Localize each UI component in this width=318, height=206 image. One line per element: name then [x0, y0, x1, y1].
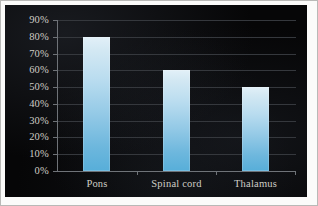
xtick-sep-1 — [137, 171, 138, 175]
xtick-sep-3 — [295, 171, 296, 175]
ytick-label-40: 40% — [5, 99, 49, 110]
ytick-10 — [53, 154, 57, 155]
ytick-80 — [53, 37, 57, 38]
ytick-70 — [53, 54, 57, 55]
axis-y-line — [57, 20, 58, 171]
chart-figure: 90% 80% 70% 60% 50% 40% 30% 20% 10% 0% P… — [0, 0, 318, 206]
bar-pons[interactable] — [83, 37, 110, 171]
axis-x-baseline — [57, 171, 296, 172]
ytick-label-30: 30% — [5, 116, 49, 127]
ytick-40 — [53, 104, 57, 105]
plot-area: 90% 80% 70% 60% 50% 40% 30% 20% 10% 0% P… — [57, 20, 296, 171]
ytick-label-80: 80% — [5, 32, 49, 43]
ytick-60 — [53, 70, 57, 71]
ytick-30 — [53, 121, 57, 122]
ytick-20 — [53, 137, 57, 138]
gridline-90 — [57, 20, 296, 21]
xtick-label-thalamus: Thalamus — [216, 178, 295, 189]
ytick-label-20: 20% — [5, 132, 49, 143]
ytick-0 — [53, 171, 57, 172]
ytick-label-0: 0% — [5, 166, 49, 177]
ytick-label-90: 90% — [5, 15, 49, 26]
chart-panel: 90% 80% 70% 60% 50% 40% 30% 20% 10% 0% P… — [5, 5, 307, 197]
ytick-label-60: 60% — [5, 65, 49, 76]
xtick-label-spinal-cord: Spinal cord — [137, 178, 216, 189]
ytick-90 — [53, 20, 57, 21]
xtick-label-pons: Pons — [57, 178, 137, 189]
bar-spinal-cord[interactable] — [163, 70, 190, 171]
ytick-label-10: 10% — [5, 149, 49, 160]
ytick-label-50: 50% — [5, 82, 49, 93]
bar-thalamus[interactable] — [242, 87, 269, 171]
xtick-sep-2 — [216, 171, 217, 175]
ytick-50 — [53, 87, 57, 88]
ytick-label-70: 70% — [5, 49, 49, 60]
